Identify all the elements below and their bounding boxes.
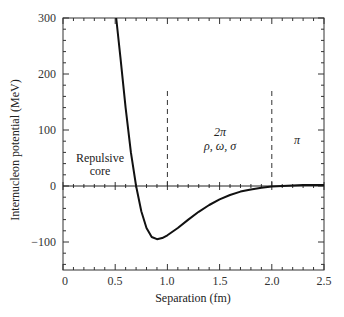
x-tick-0: 0 (62, 274, 68, 288)
y-tick-200: 200 (38, 67, 56, 81)
x-tick-0-5: 0.5 (108, 274, 123, 288)
x-tick-1-5: 1.5 (213, 274, 228, 288)
x-tick-1-0: 1.0 (160, 274, 175, 288)
annotation-two-pi: 2π (214, 125, 227, 139)
annotation-repulsive: Repulsive (76, 151, 124, 165)
y-tick-100: 100 (38, 123, 56, 137)
plot-frame (63, 18, 324, 270)
x-tick-2-0: 2.0 (265, 274, 280, 288)
annotation-core: core (90, 164, 111, 178)
y-tick-300: 300 (38, 11, 56, 25)
y-tick-minus-100: −100 (31, 235, 56, 249)
x-tick-2-5: 2.5 (317, 274, 332, 288)
y-axis-ticks (63, 18, 324, 264)
x-axis-label: Separation (fm) (155, 291, 231, 305)
y-tick-0: 0 (50, 179, 56, 193)
y-axis-label: Internucleon potential (MeV) (8, 79, 22, 220)
chart: 300 200 100 0 −100 0 0.5 1.0 1.5 2.0 2.5… (0, 0, 344, 317)
x-axis-ticks (63, 18, 324, 270)
annotation-mesons: ρ, ω, σ (203, 139, 237, 153)
annotation-pi: π (294, 133, 301, 147)
